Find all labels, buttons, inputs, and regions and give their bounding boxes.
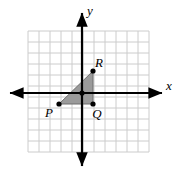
x-axis-label: x: [165, 78, 172, 93]
vertex-label-r: R: [94, 55, 103, 70]
coordinate-plane-svg: x y PQR: [0, 0, 176, 171]
vertex-marker-p: [56, 101, 61, 106]
y-axis-label: y: [85, 3, 93, 18]
origin-point-marker: [79, 90, 84, 95]
vertex-label-q: Q: [92, 106, 102, 121]
vertex-label-p: P: [44, 105, 53, 120]
coordinate-plane-figure: x y PQR: [0, 0, 176, 171]
